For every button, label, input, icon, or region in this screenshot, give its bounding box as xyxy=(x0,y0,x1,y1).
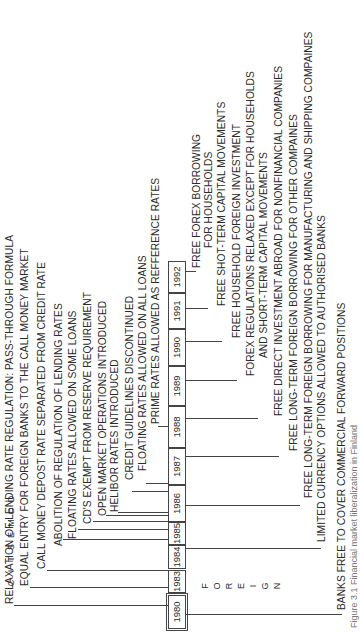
rotated-diagram: D O M E S T I C RELAXATION OF LENDING RA… xyxy=(0,0,361,634)
connector-line xyxy=(186,456,279,457)
foreign-event-label: FOREX REGULATIONS RELAXED EXCEPT FOR HOU… xyxy=(245,71,257,376)
domestic-event-label: ABOLITION OF REGULATION OF LENDING RATES xyxy=(53,303,65,546)
domestic-event-label: RELAXATION OF LENDING RATE REGULATION: P… xyxy=(4,235,16,604)
domestic-event-label: OPEN MARKET OPERATIONS INTRODUCED xyxy=(97,301,109,516)
figure-caption: Figure 3.1 Financial market liberalizati… xyxy=(349,425,359,628)
connector-line xyxy=(14,605,168,606)
year-box: 1990 xyxy=(168,329,186,366)
domestic-event-label: HELIBOR RATES INTRODUCED xyxy=(109,359,121,512)
foreign-event-label: FREE HOUSEHOLD FOREIGN INVESTMENT xyxy=(231,124,243,338)
domestic-event-label: CD'S EXEMPT FROM RESERVE REQUIREMENT xyxy=(82,292,94,524)
side-letter: I xyxy=(248,581,258,591)
side-letter: R xyxy=(224,581,234,591)
connector-line xyxy=(186,341,222,342)
connector-line xyxy=(158,426,168,427)
year-box: 1985 xyxy=(168,522,186,545)
domestic-event-label: FLOATING RATES ALLOWED ON SOME LOANS xyxy=(67,311,79,539)
domestic-event-label: EQUAL ENTRY FOR FOREIGN BANKS TO THE CAL… xyxy=(19,248,31,586)
foreign-event-label: FOR HOUSEHOLDS xyxy=(203,152,215,248)
side-letter: G xyxy=(260,581,270,591)
connector-line xyxy=(132,491,168,492)
domestic-event-label: CALL MONEY DEPOST RATE SEPARATED FROM CR… xyxy=(36,262,48,569)
year-box: 1989 xyxy=(168,366,186,406)
connector-line xyxy=(63,539,168,540)
connector-line xyxy=(186,308,208,309)
connector-line xyxy=(186,271,196,272)
year-box: 1992 xyxy=(168,261,186,293)
connector-line xyxy=(186,614,342,615)
year-box: 1988 xyxy=(168,406,186,448)
foreign-event-label: FREE LONG-TERM FOREIGN BORROWING FOR MAN… xyxy=(303,32,315,498)
year-box: 1983 xyxy=(168,570,186,593)
year-box: 1991 xyxy=(168,293,186,329)
connector-line xyxy=(30,587,168,588)
domestic-event-label: FLOATING RATES ALLOWED ON ALL LOANS xyxy=(137,255,149,471)
year-box: 1980 xyxy=(168,595,186,629)
connector-line xyxy=(47,570,168,571)
connector-line xyxy=(118,512,168,513)
side-letter: N xyxy=(272,581,282,591)
foreign-event-label: FREE SHOT-TERM CAPITAL MOVEMENTS xyxy=(216,102,228,306)
domestic-event-label: PRIME RATES ALLOWED AS REFFERENCE RATES xyxy=(150,178,162,424)
year-box: 1987 xyxy=(168,448,186,485)
side-letter: E xyxy=(236,581,246,591)
foreign-event-label: LIMITED CURRENCY OPTIONS ALLOWED TO AUTH… xyxy=(316,215,328,542)
foreign-event-label: AND SHORT-TERM CAPITAL MOVEMENTS xyxy=(258,152,270,358)
connector-line xyxy=(186,418,258,419)
year-box: 1986 xyxy=(168,485,186,522)
foreign-event-label: FREE LONG-TERM FOREIGN BORROWING FOR OTH… xyxy=(288,114,300,451)
connector-line xyxy=(78,529,168,530)
side-letter: O xyxy=(212,581,222,591)
domestic-event-label: CREDIT GUIDELINES DISCONTINUED xyxy=(124,296,136,480)
connector-line xyxy=(186,380,237,381)
foreign-event-label: BANKS FREE TO COVER COMMERCIAL FORWARD P… xyxy=(336,303,348,610)
connector-line xyxy=(93,521,168,522)
connector-line xyxy=(186,505,300,506)
foreign-event-label: FREE FOREX BORROWING xyxy=(191,134,203,268)
year-box: 1984 xyxy=(168,545,186,569)
side-letter: F xyxy=(200,581,210,591)
connector-line xyxy=(186,548,321,549)
connector-line xyxy=(146,483,168,484)
foreign-event-label: FREE DIRECT INVESTMENT ABROAD FOR NONFIN… xyxy=(273,66,285,416)
connector-line xyxy=(106,515,168,516)
